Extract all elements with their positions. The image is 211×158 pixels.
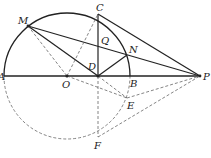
segment-DN bbox=[98, 55, 127, 76]
label-M: M bbox=[17, 15, 29, 26]
label-E: E bbox=[126, 100, 135, 111]
label-F: F bbox=[93, 140, 102, 151]
label-Q: Q bbox=[101, 35, 109, 46]
label-A: A bbox=[0, 71, 5, 82]
segment-DE bbox=[98, 76, 127, 98]
point-D-foot bbox=[96, 74, 99, 77]
segment-CP bbox=[98, 14, 200, 76]
point-P bbox=[199, 75, 202, 78]
label-C: C bbox=[96, 2, 104, 13]
geometry-diagram: A O D B P C M N Q E F bbox=[0, 0, 211, 158]
label-P: P bbox=[202, 71, 210, 82]
label-N: N bbox=[128, 44, 139, 55]
segment-MO bbox=[28, 26, 67, 76]
segment-OE bbox=[67, 76, 127, 98]
label-O: O bbox=[62, 79, 70, 90]
point-O bbox=[65, 74, 68, 77]
diagram-canvas: A O D B P C M N Q E F bbox=[0, 0, 211, 158]
segment-EP bbox=[127, 76, 200, 98]
segment-FP bbox=[98, 76, 200, 137]
label-B: B bbox=[129, 78, 137, 89]
label-D: D bbox=[87, 61, 96, 72]
